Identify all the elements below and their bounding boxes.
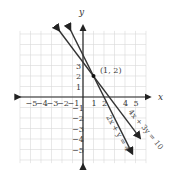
y-tick-label: 2 [76, 72, 81, 81]
equation-lines [58, 28, 139, 152]
y-axis-label: y [78, 7, 85, 17]
y-tick-label: −3 [72, 125, 84, 134]
y-tick-label: −1 [72, 104, 84, 113]
x-tick-label: 1 [92, 99, 97, 108]
x-tick-label: 4 [123, 99, 128, 108]
y-tick-label: 1 [76, 83, 81, 92]
y-tick-label: −5 [72, 146, 84, 155]
y-tick-label: −4 [72, 135, 84, 144]
x-axis-label: x [158, 92, 163, 102]
y-tick-label: 3 [76, 62, 81, 71]
equation-line-1 [58, 29, 139, 136]
line2-equation-label: 2x + y = 4 [104, 114, 132, 153]
point-label: (1, 2) [100, 66, 122, 75]
x-tick-label: 5 [134, 99, 139, 108]
intersection-point [92, 74, 96, 78]
y-tick-label: −2 [72, 114, 84, 123]
coordinate-plane-chart: −5−4−3−2−11245321−1−2−3−4−5 (1, 2) x y 4… [0, 0, 171, 175]
